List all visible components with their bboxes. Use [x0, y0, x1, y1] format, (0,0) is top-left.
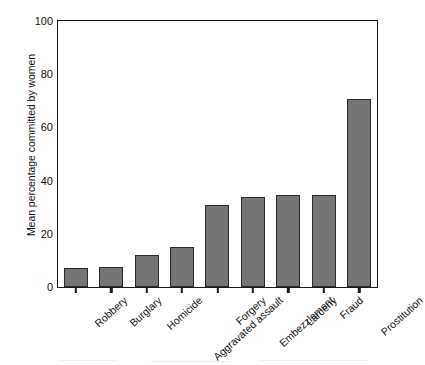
x-axis-tick-mark — [287, 288, 289, 293]
scan-artifact — [150, 361, 230, 362]
x-axis-tick-mark — [252, 288, 254, 293]
x-axis-tick-mark — [358, 288, 360, 293]
x-axis-tick-mark — [145, 288, 147, 293]
x-axis-tick-label: Homicide — [164, 294, 204, 332]
x-axis-tick-label: Robbery — [92, 294, 129, 329]
x-axis-tick-label: Burglary — [127, 294, 164, 329]
scan-artifact — [58, 360, 118, 361]
bar-slot — [235, 21, 270, 287]
x-axis-tick-label: Fraud — [337, 294, 365, 321]
y-axis-tick-label: 20 — [23, 228, 53, 240]
y-axis-tick-labels: 020406080100 — [19, 20, 53, 288]
y-axis-tick-label: 60 — [23, 121, 53, 133]
bar-slot — [342, 21, 377, 287]
bar-slot — [306, 21, 341, 287]
bar — [170, 247, 194, 287]
y-axis-tick-label: 100 — [23, 15, 53, 27]
bar — [312, 195, 336, 287]
bar-slot — [93, 21, 128, 287]
bar — [64, 268, 88, 287]
bar — [205, 205, 229, 287]
scan-artifact — [258, 360, 368, 361]
bar-slot — [271, 21, 306, 287]
bar — [99, 267, 123, 287]
x-axis-tick-mark — [216, 288, 218, 293]
x-axis-tick-label: Prostitution — [379, 294, 425, 338]
x-axis-tick-mark — [181, 288, 183, 293]
x-axis-tick-mark — [75, 288, 77, 293]
x-axis-tick-mark — [110, 288, 112, 293]
y-axis-tick-label: 40 — [23, 175, 53, 187]
bar — [347, 99, 371, 287]
bar — [276, 195, 300, 287]
bar-series — [58, 21, 377, 287]
x-axis-tick-labels: RobberyBurglaryHomicideAggravated assaul… — [58, 294, 377, 364]
bar-slot — [58, 21, 93, 287]
x-axis-tick-mark — [323, 288, 325, 293]
bar — [135, 255, 159, 287]
bar-slot — [200, 21, 235, 287]
y-axis-tick-label: 80 — [23, 68, 53, 80]
y-axis-tick-label: 0 — [23, 281, 53, 293]
bar — [241, 197, 265, 287]
bar-slot — [129, 21, 164, 287]
bar-slot — [164, 21, 199, 287]
